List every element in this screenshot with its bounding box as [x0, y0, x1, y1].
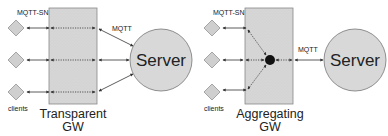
transparent-gateway-diagram: Server MQTT-SN MQTT clients Transparent …	[8, 8, 192, 134]
gateway-title-line1: Transparent	[40, 107, 107, 121]
transparent-gateway-box	[49, 8, 97, 104]
mqtt-label: MQTT	[298, 46, 319, 54]
client-node	[8, 52, 24, 68]
client-node	[8, 20, 24, 36]
server-label: Server	[136, 51, 186, 70]
gateway-title-line2: GW	[62, 120, 84, 134]
client-node	[204, 52, 220, 68]
clients-label: clients	[204, 105, 224, 112]
mqtt-link	[99, 74, 133, 91]
mqtt-sn-label: MQTT-SN	[213, 9, 245, 17]
clients-label: clients	[8, 105, 28, 112]
client-diamond-icon	[204, 84, 220, 100]
aggregating-gateway-diagram: Server MQTT-SN MQTT clients Aggregating …	[204, 8, 386, 134]
client-node	[204, 84, 220, 100]
client-diamond-icon	[8, 52, 24, 68]
gateway-title-line1: Aggregating	[236, 107, 303, 121]
client-diamond-icon	[8, 84, 24, 100]
client-node	[204, 20, 220, 36]
mqtt-sn-label: MQTT-SN	[17, 9, 49, 17]
mqtt-label: MQTT	[112, 25, 133, 33]
client-node	[8, 84, 24, 100]
client-diamond-icon	[204, 52, 220, 68]
gateway-title-line2: GW	[259, 120, 281, 134]
server-label: Server	[330, 51, 380, 70]
client-diamond-icon	[204, 20, 220, 36]
client-diamond-icon	[8, 20, 24, 36]
aggregation-hub-dot	[265, 55, 275, 65]
gateway-diagrams: Server MQTT-SN MQTT clients Transparent …	[0, 0, 388, 136]
